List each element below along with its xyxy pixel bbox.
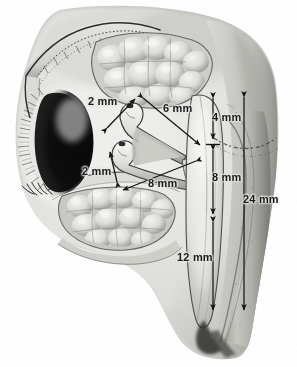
anatomy-illustration bbox=[0, 0, 297, 367]
anatomical-figure: 2 mm 6 mm 4 mm 2 mm 8 mm 8 mm 12 mm 24 m… bbox=[0, 0, 297, 367]
